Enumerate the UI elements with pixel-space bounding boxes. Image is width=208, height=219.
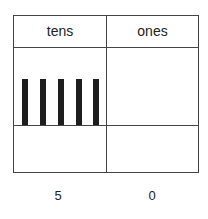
tens-rod xyxy=(40,79,46,125)
tens-rod xyxy=(22,79,28,125)
place-value-chart: tens ones xyxy=(13,15,199,173)
tens-rod xyxy=(93,79,99,125)
ones-value: 0 xyxy=(132,188,172,203)
tens-rods xyxy=(22,79,102,125)
tens-rod xyxy=(58,79,64,125)
tens-rod xyxy=(76,79,82,125)
column-divider xyxy=(106,16,107,172)
tens-value: 5 xyxy=(38,188,78,203)
tens-header: tens xyxy=(14,16,106,47)
ones-header: ones xyxy=(106,16,199,47)
